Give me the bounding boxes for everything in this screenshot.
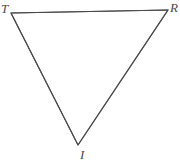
geometry-diagram-canvas: T R I (0, 0, 180, 163)
vertex-label-i: I (80, 148, 84, 161)
triangle-tri-outline (11, 10, 168, 145)
triangle-figure (0, 0, 180, 163)
edge-tr-top (11, 10, 168, 13)
edge-it-left (11, 13, 78, 145)
vertex-label-r: R (170, 1, 178, 14)
edge-ri-right (78, 10, 168, 145)
vertex-label-t: T (1, 2, 8, 15)
